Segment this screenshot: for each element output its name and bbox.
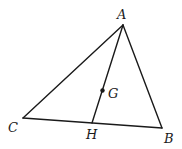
label-b: B (163, 131, 174, 146)
point-g-dot (100, 88, 104, 92)
label-g: G (108, 86, 118, 101)
segment-ab (123, 25, 162, 128)
triangle-diagram: A G C H B (0, 0, 182, 149)
label-a: A (116, 7, 126, 22)
label-c: C (8, 120, 18, 135)
label-h: H (85, 127, 98, 142)
